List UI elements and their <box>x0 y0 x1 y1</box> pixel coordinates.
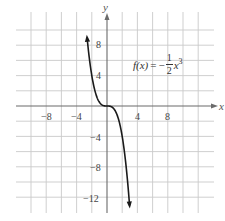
y-tick-label: 8 <box>96 39 101 50</box>
function-lhs: f(x) <box>133 59 148 71</box>
curve-top-arrow-icon <box>85 35 90 42</box>
equals-sign: = <box>150 59 156 71</box>
x-tick-label: −4 <box>71 111 82 122</box>
function-label: f(x) = − 1 2 x3 <box>133 53 183 76</box>
y-tick-label: −4 <box>90 132 101 143</box>
x-tick-label: 8 <box>165 111 170 122</box>
curve-bottom-arrow-icon <box>127 201 132 208</box>
y-axis <box>105 13 110 213</box>
x-tick-labels: −8 −4 4 8 <box>41 111 170 122</box>
y-axis-label: y <box>102 1 108 13</box>
x-tick-label: −8 <box>41 111 52 122</box>
x-tick-label: 4 <box>135 111 140 122</box>
fraction: 1 2 <box>166 53 173 76</box>
y-tick-label: −12 <box>83 193 99 204</box>
y-axis-arrow-icon <box>105 13 110 20</box>
function-graph: x y −8 −4 4 8 8 4 −4 −8 −12 <box>0 0 225 221</box>
y-tick-label: 4 <box>96 70 101 81</box>
function-exponent: 3 <box>179 57 183 66</box>
fraction-numerator: 1 <box>166 53 173 65</box>
x-axis-label: x <box>218 100 224 112</box>
fraction-denominator: 2 <box>167 65 172 76</box>
x-axis-arrow-icon <box>211 104 218 109</box>
minus-sign: − <box>158 59 164 71</box>
y-tick-label: −8 <box>90 162 101 173</box>
